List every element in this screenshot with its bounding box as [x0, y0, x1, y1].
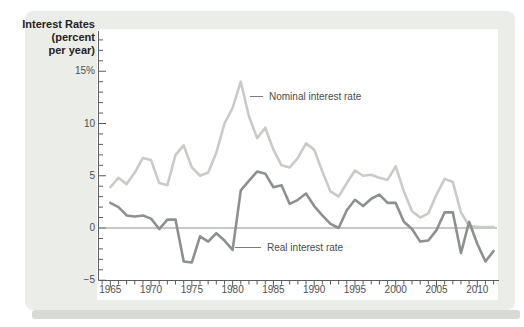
- y-axis-title-line2: (percent: [14, 31, 95, 44]
- x-tick-label: 1985: [256, 284, 290, 296]
- x-tick-label: 1970: [134, 284, 168, 296]
- x-tick-label: 2005: [420, 284, 454, 296]
- x-tick-label: 1990: [297, 284, 331, 296]
- x-tick-label: 1995: [338, 284, 372, 296]
- x-tick-label: 1980: [216, 284, 250, 296]
- nominal-interest-rate-line: [110, 82, 493, 227]
- y-axis-title-line1: Interest Rates: [14, 18, 95, 31]
- y-axis-title-line3: per year): [14, 44, 95, 57]
- y-axis-title: Interest Rates (percent per year): [14, 18, 95, 57]
- nominal-series-label: Nominal interest rate: [269, 91, 361, 102]
- y-tick-label: 5: [50, 170, 95, 182]
- x-tick-label: 1965: [93, 284, 127, 296]
- y-tick-label: 10: [50, 118, 95, 130]
- real-leader-dash-icon: [235, 247, 261, 248]
- y-tick-label: 15%: [50, 65, 95, 77]
- y-tick-label: 0: [50, 222, 95, 234]
- nominal-leader-dash-icon: [250, 96, 263, 97]
- real-series-annotation: Real interest rate: [235, 242, 343, 253]
- x-tick-label: 2010: [460, 284, 494, 296]
- x-tick-label: 1975: [175, 284, 209, 296]
- screenshot-root: Interest Rates (percent per year) 15%105…: [0, 0, 524, 327]
- x-tick-label: 2000: [379, 284, 413, 296]
- real-series-label: Real interest rate: [267, 242, 343, 253]
- nominal-series-annotation: Nominal interest rate: [250, 91, 361, 102]
- y-tick-label: −5: [50, 274, 95, 286]
